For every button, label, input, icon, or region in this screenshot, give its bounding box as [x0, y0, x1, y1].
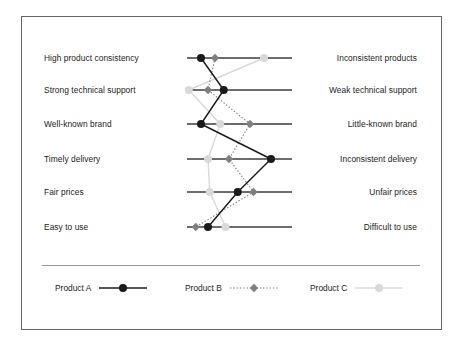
legend-item-product-a[interactable]: Product A — [55, 281, 149, 295]
data-point — [197, 54, 205, 62]
legend-swatch-circle — [97, 282, 149, 294]
series-line-product-a — [201, 58, 271, 227]
legend-item-product-b[interactable]: Product B — [185, 281, 280, 295]
data-point — [267, 155, 275, 163]
legend-swatch-circle — [353, 282, 405, 294]
legend-swatch-diamond — [228, 282, 280, 294]
data-point — [222, 223, 230, 231]
legend-label: Product C — [310, 283, 347, 293]
chart-root: High product consistencyStrong technical… — [0, 0, 461, 346]
data-point — [197, 120, 205, 128]
data-point — [220, 86, 228, 94]
legend-item-product-c[interactable]: Product C — [310, 281, 405, 295]
legend-label: Product A — [55, 283, 91, 293]
data-point — [185, 86, 193, 94]
legend-divider — [42, 265, 420, 266]
data-point — [216, 120, 224, 128]
series-line-product-c — [189, 58, 264, 227]
data-point — [249, 188, 257, 196]
data-point — [204, 223, 212, 231]
data-point — [192, 223, 200, 231]
data-point — [211, 54, 219, 62]
data-point — [234, 188, 242, 196]
data-point — [225, 155, 233, 163]
data-point — [260, 54, 268, 62]
data-point — [204, 155, 212, 163]
legend-label: Product B — [185, 283, 222, 293]
data-point — [206, 188, 214, 196]
